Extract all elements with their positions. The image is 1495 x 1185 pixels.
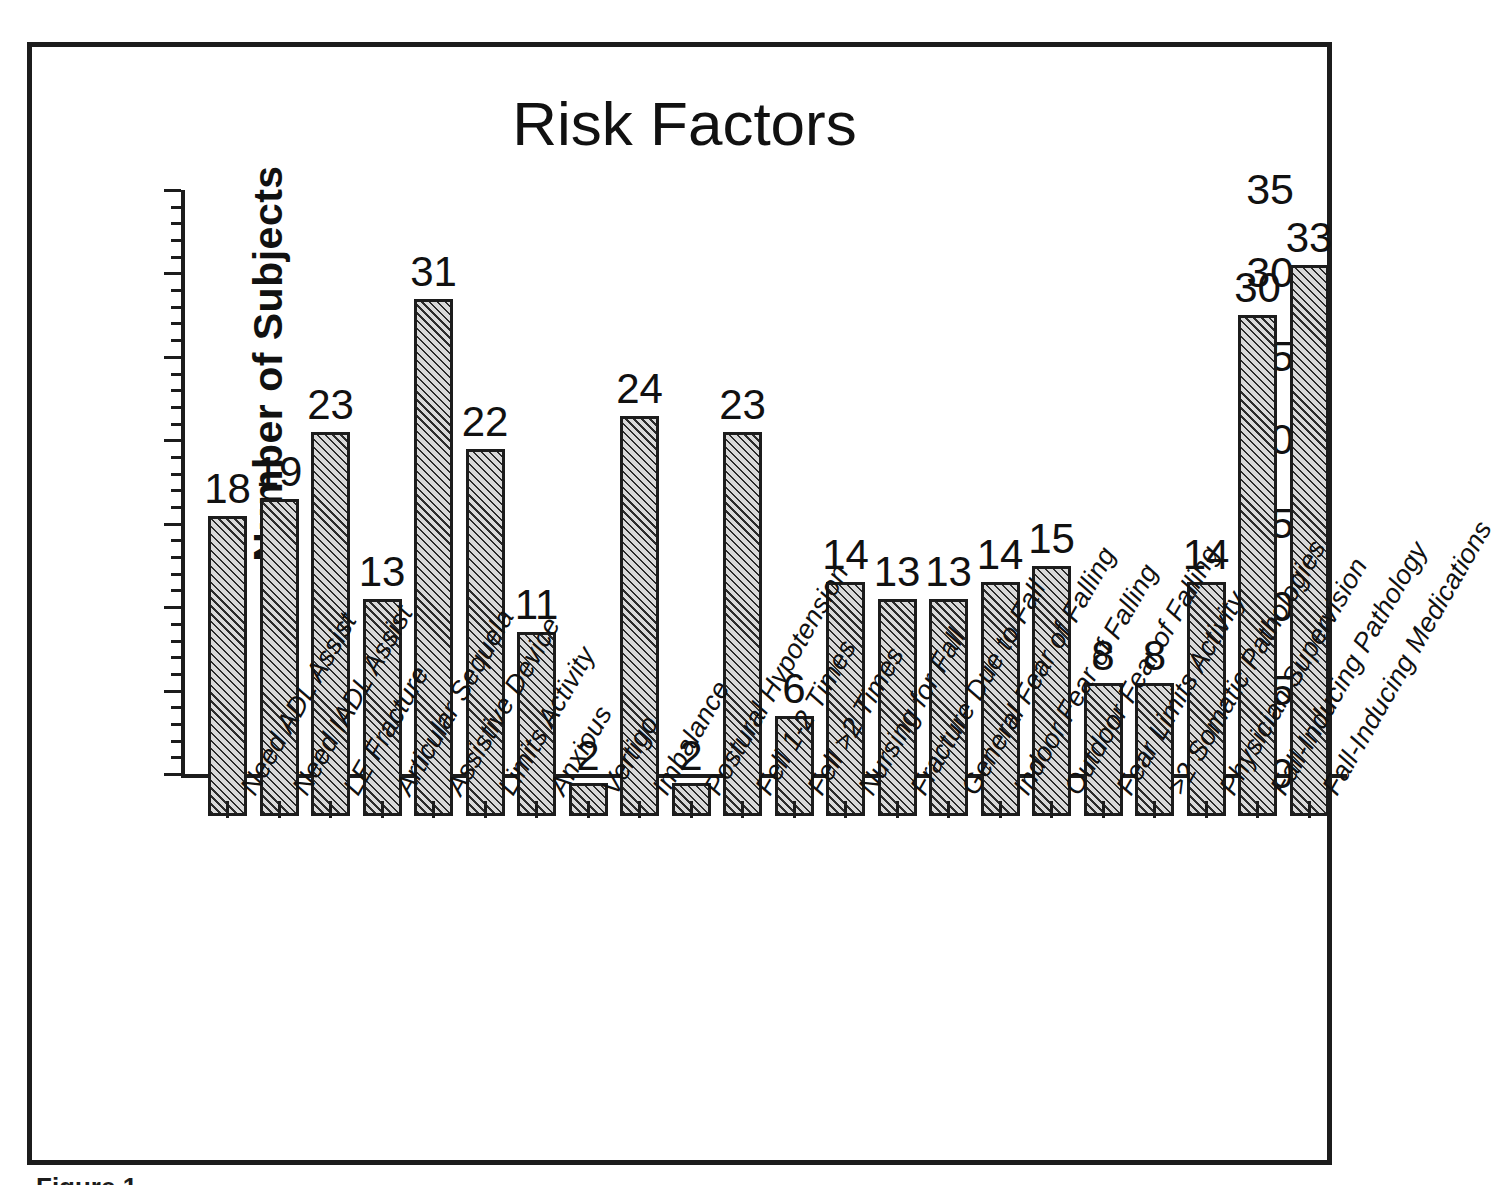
y-tick-minor — [171, 456, 181, 459]
y-tick-minor — [171, 389, 181, 392]
x-tick — [278, 801, 281, 818]
x-tick — [587, 801, 590, 818]
bar-value-label: 33 — [1268, 217, 1351, 259]
y-tick-major — [164, 272, 181, 275]
y-tick-minor — [171, 539, 181, 542]
x-tick — [484, 801, 487, 818]
x-tick — [638, 801, 641, 818]
chart-title: Risk Factors — [32, 89, 1337, 159]
x-tick — [999, 801, 1002, 818]
y-tick-minor — [171, 573, 181, 576]
y-tick-minor — [171, 656, 181, 659]
y-tick-major — [164, 606, 181, 609]
y-tick-minor — [171, 256, 181, 259]
x-tick — [844, 801, 847, 818]
x-tick — [1308, 801, 1311, 818]
y-tick-minor — [171, 339, 181, 342]
bar-value-label: 31 — [392, 251, 475, 293]
bar-value-label: 24 — [598, 368, 681, 410]
x-tick — [535, 801, 538, 818]
x-tick — [1153, 801, 1156, 818]
y-tick-label: 35 — [1222, 168, 1294, 211]
x-tick — [1050, 801, 1053, 818]
y-tick-minor — [171, 506, 181, 509]
y-tick-minor — [171, 623, 181, 626]
y-tick-minor — [171, 289, 181, 292]
y-tick-minor — [171, 640, 181, 643]
bar-value-label: 13 — [341, 551, 424, 593]
y-tick-major — [164, 523, 181, 526]
bar-value-label: 30 — [1216, 267, 1299, 309]
y-tick-minor — [171, 756, 181, 759]
bar-value-label: 15 — [1010, 518, 1093, 560]
x-tick — [947, 801, 950, 818]
y-tick-minor — [171, 322, 181, 325]
x-tick — [1256, 801, 1259, 818]
y-tick-minor — [171, 723, 181, 726]
bar-value-label: 22 — [444, 401, 527, 443]
y-tick-major — [164, 439, 181, 442]
y-tick-minor — [171, 206, 181, 209]
y-tick-minor — [171, 222, 181, 225]
y-tick-minor — [171, 406, 181, 409]
x-tick — [329, 801, 332, 818]
bar-value-label: 23 — [701, 384, 784, 426]
plot-area: Number of Subjects 05101520253035 181923… — [181, 190, 1320, 816]
figure-frame: Risk Factors Number of Subjects 05101520… — [27, 42, 1332, 1165]
y-tick-minor — [171, 556, 181, 559]
y-axis-line — [181, 190, 185, 774]
y-tick-major — [164, 690, 181, 693]
y-tick-minor — [171, 373, 181, 376]
y-tick-minor — [171, 306, 181, 309]
x-tick — [432, 801, 435, 818]
bar-value-label: 19 — [238, 451, 321, 493]
x-tick — [793, 801, 796, 818]
x-tick — [381, 801, 384, 818]
y-tick-minor — [171, 473, 181, 476]
x-tick — [690, 801, 693, 818]
figure-caption: Figure 1 — [36, 1172, 137, 1185]
y-tick-minor — [171, 589, 181, 592]
y-tick-minor — [171, 423, 181, 426]
y-tick-minor — [171, 673, 181, 676]
x-tick — [896, 801, 899, 818]
y-tick-minor — [171, 239, 181, 242]
y-tick-major — [164, 189, 181, 192]
x-tick — [1102, 801, 1105, 818]
y-tick-minor — [171, 706, 181, 709]
x-tick — [1205, 801, 1208, 818]
y-tick-minor — [171, 740, 181, 743]
bar-value-label: 23 — [289, 384, 372, 426]
y-tick-major — [164, 356, 181, 359]
y-tick-major — [164, 773, 181, 776]
y-tick-minor — [171, 489, 181, 492]
x-tick — [741, 801, 744, 818]
x-tick — [226, 801, 229, 818]
